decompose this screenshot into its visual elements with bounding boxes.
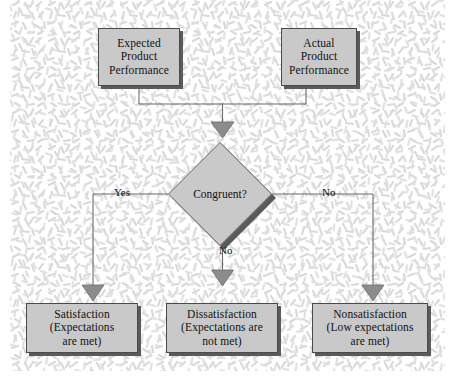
node-nonsatisfaction[interactable]: Nonsatisfaction (Low expectations are me… — [312, 303, 428, 353]
node-dissatisfaction[interactable]: Dissatisfaction (Expectations are not me… — [166, 303, 278, 353]
node-line: Dissatisfaction — [170, 308, 274, 322]
edge-label-no-center: No — [215, 244, 236, 256]
node-congruent-decision[interactable]: Congruent? — [168, 142, 272, 246]
flowchart-figure: Expected Product Performance Actual Prod… — [0, 0, 455, 385]
node-line: not met) — [170, 335, 274, 349]
edge-label-no-right: No — [318, 186, 339, 198]
node-line: Satisfaction — [30, 308, 134, 322]
node-line: (Expectations — [30, 321, 134, 335]
node-line: Performance — [285, 64, 353, 78]
node-line: (Expectations are — [170, 321, 274, 335]
node-line: are met) — [30, 335, 134, 349]
node-satisfaction[interactable]: Satisfaction (Expectations are met) — [26, 303, 138, 353]
node-line: (Low expectations — [316, 321, 424, 335]
node-line: Performance — [102, 64, 176, 78]
node-text: Nonsatisfaction (Low expectations are me… — [316, 308, 424, 349]
node-line: Product — [102, 50, 176, 64]
node-expected-product-performance[interactable]: Expected Product Performance — [98, 28, 180, 86]
node-line: Product — [285, 50, 353, 64]
node-text: Satisfaction (Expectations are met) — [30, 308, 134, 349]
node-text: Dissatisfaction (Expectations are not me… — [170, 308, 274, 349]
node-line: Actual — [285, 37, 353, 51]
decision-label: Congruent? — [168, 142, 272, 246]
node-line: are met) — [316, 335, 424, 349]
node-line: Nonsatisfaction — [316, 308, 424, 322]
node-text: Actual Product Performance — [285, 37, 353, 78]
node-line: Expected — [102, 37, 176, 51]
edge-label-yes: Yes — [110, 186, 134, 198]
node-actual-product-performance[interactable]: Actual Product Performance — [281, 28, 357, 86]
node-text: Expected Product Performance — [102, 37, 176, 78]
